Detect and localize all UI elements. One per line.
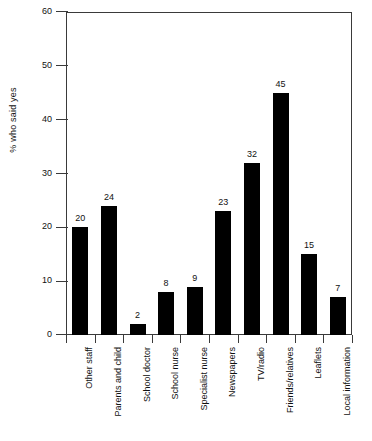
x-axis-label-text: Newspapers — [227, 347, 237, 397]
bar-value-label-2: 2 — [123, 311, 153, 320]
x-axis-label-9: Local information — [342, 347, 352, 416]
y-tick-label-20: 20 — [18, 222, 52, 231]
x-axis-label-8: Leaflets — [313, 347, 323, 379]
x-axis-label-7: Friends/relatives — [285, 347, 295, 413]
x-axis-label-text: TV/radio — [256, 347, 266, 381]
bar-value-label-4: 9 — [180, 274, 210, 283]
x-axis-label-text: School nurse — [170, 347, 180, 400]
x-axis-label-3: School nurse — [170, 347, 180, 400]
y-tick-60 — [56, 11, 68, 12]
x-tick-6 — [238, 335, 239, 343]
bar-value-label-5: 23 — [208, 198, 238, 207]
bar-value-label-1: 24 — [94, 193, 124, 202]
bar-friends-relatives — [273, 93, 289, 335]
y-tick-30 — [56, 173, 68, 174]
bar-tv-radio — [244, 163, 260, 335]
bar-other-staff — [72, 227, 88, 335]
bar-parents-and-child — [101, 206, 117, 335]
x-axis-label-4: Specialist nurse — [199, 347, 209, 411]
x-axis-label-text: Specialist nurse — [199, 347, 209, 411]
x-axis-label-0: Other staff — [84, 347, 94, 389]
bar-value-label-0: 20 — [65, 214, 95, 223]
x-tick-7 — [266, 335, 267, 343]
bar-chart: % who said yes 0102030405060 20242892332… — [0, 0, 372, 441]
bar-specialist-nurse — [187, 287, 203, 335]
y-tick-label-30: 30 — [18, 169, 52, 178]
x-tick-3 — [152, 335, 153, 343]
bar-leaflets — [301, 254, 317, 335]
y-tick-40 — [56, 119, 68, 120]
x-axis-label-6: TV/radio — [256, 347, 266, 381]
y-tick-label-50: 50 — [18, 61, 52, 70]
x-tick-10 — [352, 335, 353, 343]
x-axis-label-5: Newspapers — [227, 347, 237, 397]
y-tick-20 — [56, 227, 68, 228]
bar-value-label-9: 7 — [323, 284, 353, 293]
bar-school-doctor — [130, 324, 146, 335]
bar-value-label-8: 15 — [294, 241, 324, 250]
y-tick-label-60: 60 — [18, 7, 52, 16]
y-tick-label-10: 10 — [18, 276, 52, 285]
x-tick-9 — [323, 335, 324, 343]
y-tick-label-0: 0 — [18, 330, 52, 339]
x-axis-label-2: School doctor — [142, 347, 152, 402]
x-axis-label-text: Local information — [342, 347, 352, 416]
bar-local-information — [330, 297, 346, 335]
y-axis-title-text: % who said yes — [8, 35, 18, 205]
y-tick-label-40: 40 — [18, 115, 52, 124]
bar-value-label-7: 45 — [266, 80, 296, 89]
x-tick-8 — [295, 335, 296, 343]
bar-value-label-6: 32 — [237, 150, 267, 159]
y-axis-title: % who said yes — [8, 0, 18, 120]
x-tick-1 — [95, 335, 96, 343]
x-axis-label-text: School doctor — [142, 347, 152, 402]
x-axis-label-text: Leaflets — [313, 347, 323, 379]
x-tick-0 — [66, 335, 67, 343]
x-tick-5 — [209, 335, 210, 343]
x-tick-2 — [123, 335, 124, 343]
x-tick-4 — [180, 335, 181, 343]
y-tick-10 — [56, 281, 68, 282]
bar-value-label-3: 8 — [151, 279, 181, 288]
bar-school-nurse — [158, 292, 174, 335]
y-tick-50 — [56, 65, 68, 66]
x-axis-label-text: Friends/relatives — [285, 347, 295, 413]
x-axis-label-text: Other staff — [84, 347, 94, 389]
x-axis-label-text: Parents and child — [113, 347, 123, 417]
bar-newspapers — [215, 211, 231, 335]
x-axis-label-1: Parents and child — [113, 347, 123, 417]
